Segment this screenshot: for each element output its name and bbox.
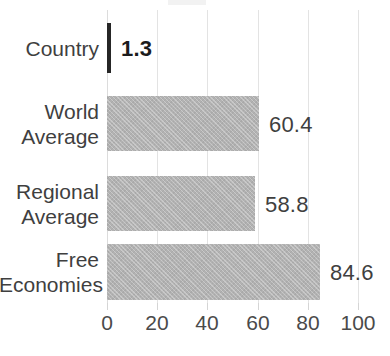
category-label-regional-average: Regional Average: [0, 179, 99, 229]
tick-label-100: 100: [340, 311, 375, 335]
category-label-world-average-line2: Average: [0, 124, 99, 149]
category-label-regional-average-line1: Regional: [0, 179, 99, 204]
category-label-world-average: World Average: [0, 99, 99, 149]
tick-label-0: 0: [101, 311, 113, 335]
category-label-country-line1: Country: [25, 37, 99, 60]
tick-label-40: 40: [195, 311, 218, 335]
category-label-free-economies: Free Economies: [0, 247, 99, 297]
tick-label-60: 60: [246, 311, 269, 335]
tick-label-80: 80: [296, 311, 319, 335]
x-axis-tick-labels: 0 20 40 60 80 100: [107, 0, 358, 356]
category-label-regional-average-line2: Average: [0, 204, 99, 229]
tick-label-20: 20: [145, 311, 168, 335]
category-label-free-economies-line2: Economies: [0, 272, 99, 297]
bar-chart: 1.3 60.4 58.8 84.6 Country World Average…: [0, 0, 390, 356]
category-label-country: Country: [0, 36, 99, 61]
category-label-free-economies-line1: Free: [0, 247, 99, 272]
category-label-world-average-line1: World: [0, 99, 99, 124]
category-labels: Country World Average Regional Average F…: [0, 0, 99, 356]
tick-mark-100: [358, 303, 359, 310]
